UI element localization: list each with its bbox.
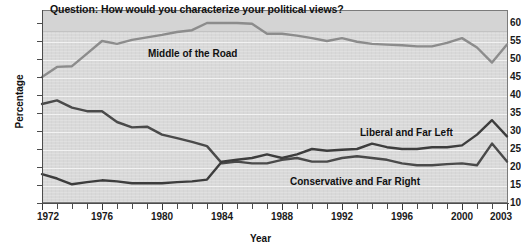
y-tick-label: 20: [491, 161, 521, 172]
x-axis-title: Year: [0, 233, 521, 244]
y-tick-mark: [37, 113, 42, 114]
x-tick-label: 1996: [391, 211, 413, 222]
x-tick-mark: [417, 204, 418, 209]
y-tick-mark: [37, 77, 42, 78]
series-label-liberal-and-far-left: Liberal and Far Left: [360, 127, 453, 138]
x-tick-mark: [132, 204, 133, 209]
y-tick-mark: [37, 167, 42, 168]
x-tick-mark: [387, 204, 388, 209]
x-tick-mark-major: [342, 204, 343, 210]
y-tick-label: 30: [491, 125, 521, 136]
x-tick-mark: [492, 204, 493, 209]
x-tick-mark: [372, 204, 373, 209]
x-tick-label: 1992: [331, 211, 353, 222]
x-tick-mark-major: [222, 204, 223, 210]
x-tick-mark-major: [42, 204, 43, 210]
x-tick-mark: [72, 204, 73, 209]
x-tick-mark: [312, 204, 313, 209]
series-line-middle-of-the-road: [42, 23, 507, 77]
x-tick-mark: [117, 204, 118, 209]
y-tick-mark: [37, 59, 42, 60]
x-tick-label: 1976: [91, 211, 113, 222]
y-tick-mark: [37, 185, 42, 186]
y-tick-label: 10: [491, 197, 521, 208]
y-tick-label: 50: [491, 53, 521, 64]
x-tick-mark: [192, 204, 193, 209]
x-tick-mark: [177, 204, 178, 209]
x-tick-mark-major: [402, 204, 403, 210]
x-tick-mark: [57, 204, 58, 209]
y-tick-label: 25: [491, 143, 521, 154]
x-tick-label: 2000: [451, 211, 473, 222]
y-axis-title: Percentage: [14, 47, 25, 157]
y-tick-mark: [37, 95, 42, 96]
series-label-middle-of-the-road: Middle of the Road: [148, 48, 237, 59]
x-tick-mark: [267, 204, 268, 209]
x-tick-mark: [447, 204, 448, 209]
x-tick-label: 1980: [151, 211, 173, 222]
y-tick-label: 15: [491, 179, 521, 190]
x-tick-mark: [147, 204, 148, 209]
y-tick-label: 60: [491, 17, 521, 28]
y-tick-mark: [37, 23, 42, 24]
y-tick-mark: [37, 131, 42, 132]
x-tick-label: 1984: [211, 211, 233, 222]
x-axis-line: [42, 203, 509, 204]
y-tick-mark: [37, 41, 42, 42]
x-tick-mark: [432, 204, 433, 209]
x-tick-mark: [297, 204, 298, 209]
x-tick-mark-major: [102, 204, 103, 210]
y-tick-mark: [37, 149, 42, 150]
x-tick-mark-major: [462, 204, 463, 210]
y-tick-label: 40: [491, 89, 521, 100]
x-tick-mark: [357, 204, 358, 209]
series-label-conservative-and-far-right: Conservative and Far Right: [290, 176, 420, 187]
x-tick-mark-major: [162, 204, 163, 210]
x-tick-label: 1972: [37, 211, 59, 222]
x-tick-label: 2003: [490, 211, 512, 222]
series-layer: [42, 10, 508, 203]
x-tick-mark-major: [507, 204, 508, 210]
x-tick-mark: [87, 204, 88, 209]
chart-container: Question: How would you characterize you…: [0, 0, 521, 250]
x-tick-mark: [252, 204, 253, 209]
x-tick-mark: [237, 204, 238, 209]
y-tick-label: 35: [491, 107, 521, 118]
x-tick-label: 1988: [271, 211, 293, 222]
y-axis-line: [42, 10, 43, 204]
y-tick-label: 55: [491, 35, 521, 46]
x-tick-mark: [477, 204, 478, 209]
y-tick-label: 45: [491, 71, 521, 82]
x-tick-mark: [207, 204, 208, 209]
x-tick-mark: [327, 204, 328, 209]
x-tick-mark-major: [282, 204, 283, 210]
